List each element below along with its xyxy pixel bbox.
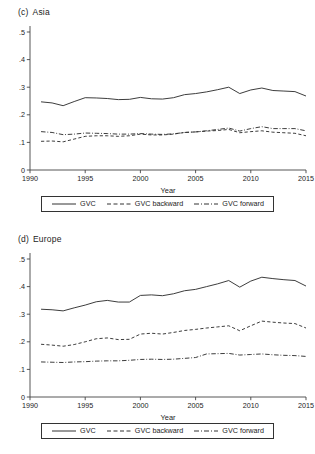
figure-page: (c)Asia 0.1.2.3.4.5199019952000200520102… [0, 0, 315, 454]
x-tick-label: 2000 [132, 174, 148, 183]
legend-key-dashed-icon [106, 427, 132, 435]
x-tick-label: 2000 [132, 401, 148, 410]
panel-europe-tag: (d) [18, 234, 29, 244]
panel-asia-name: Asia [33, 7, 50, 17]
legend-key-dashed-icon [106, 200, 132, 208]
legend-label-gvc-forward: GVC forward [222, 200, 264, 207]
legend-item-gvc-forward[interactable]: GVC forward [193, 427, 264, 435]
legend-label-gvc-backward: GVC backward [135, 427, 183, 434]
x-axis-label: Year [161, 413, 176, 422]
series-line-gvc-forward [41, 353, 306, 362]
legend-label-gvc-backward: GVC backward [135, 200, 183, 207]
series-line-gvc [41, 87, 306, 105]
x-tick-label: 2015 [298, 401, 314, 410]
legend-key-solid-icon [51, 200, 77, 208]
panel-europe: (d)Europe 0.1.2.3.4.51990199520002005201… [0, 227, 315, 454]
x-tick-label: 1990 [22, 174, 38, 183]
legend-asia: GVC GVC backward GVC forward [41, 196, 274, 212]
legend-item-gvc-backward[interactable]: GVC backward [106, 427, 183, 435]
legend-item-gvc-forward[interactable]: GVC forward [193, 200, 264, 208]
plot-area-asia: 0.1.2.3.4.5199019952000200520102015Year [0, 18, 315, 196]
y-tick-label: .4 [19, 55, 25, 64]
y-tick-label: .5 [19, 255, 25, 264]
panel-asia-title: (c)Asia [18, 7, 50, 17]
series-line-gvc-backward [41, 321, 306, 346]
legend-europe: GVC GVC backward GVC forward [41, 423, 274, 439]
x-tick-label: 2010 [243, 401, 259, 410]
panel-asia-tag: (c) [18, 7, 29, 17]
legend-label-gvc: GVC [80, 200, 96, 207]
series-line-gvc-forward [41, 127, 306, 135]
x-tick-label: 1995 [77, 174, 93, 183]
legend-item-gvc[interactable]: GVC [51, 427, 96, 435]
y-tick-label: .2 [19, 110, 25, 119]
panel-asia: (c)Asia 0.1.2.3.4.5199019952000200520102… [0, 0, 315, 227]
y-tick-label: .3 [19, 310, 25, 319]
legend-item-gvc-backward[interactable]: GVC backward [106, 200, 183, 208]
series-line-gvc [41, 277, 306, 311]
legend-key-dashdot-icon [193, 427, 219, 435]
x-tick-label: 2010 [243, 174, 259, 183]
y-tick-label: .5 [19, 28, 25, 37]
legend-item-gvc[interactable]: GVC [51, 200, 96, 208]
series-line-gvc-backward [41, 129, 306, 141]
y-tick-label: .4 [19, 282, 25, 291]
x-tick-label: 2005 [188, 401, 204, 410]
y-tick-label: .3 [19, 83, 25, 92]
x-tick-label: 1990 [22, 401, 38, 410]
plot-area-europe: 0.1.2.3.4.5199019952000200520102015Year [0, 245, 315, 423]
panel-europe-title: (d)Europe [18, 234, 62, 244]
y-tick-label: .2 [19, 337, 25, 346]
legend-key-solid-icon [51, 427, 77, 435]
x-tick-label: 2005 [188, 174, 204, 183]
y-tick-label: .1 [19, 138, 25, 147]
x-tick-label: 1995 [77, 401, 93, 410]
y-tick-label: .1 [19, 365, 25, 374]
legend-label-gvc-forward: GVC forward [222, 427, 264, 434]
panel-europe-name: Europe [33, 234, 62, 244]
legend-label-gvc: GVC [80, 427, 96, 434]
x-axis-label: Year [161, 186, 176, 195]
x-tick-label: 2015 [298, 174, 314, 183]
legend-key-dashdot-icon [193, 200, 219, 208]
